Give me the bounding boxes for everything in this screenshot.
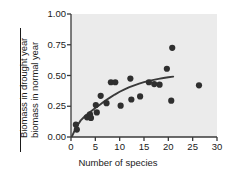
data-point: [103, 100, 109, 106]
x-tick-label: 20: [156, 142, 180, 152]
x-tick-label: 5: [83, 142, 107, 152]
x-tick-label: 30: [205, 142, 229, 152]
data-point: [93, 102, 99, 108]
chart-figure: Biomass in drought year biomass in norma…: [0, 0, 236, 176]
data-point: [151, 81, 157, 87]
data-point: [164, 66, 170, 72]
data-point: [112, 79, 118, 85]
x-tick-label: 0: [59, 142, 83, 152]
data-point: [118, 103, 124, 109]
data-point: [94, 109, 100, 115]
data-point: [146, 79, 152, 85]
data-point: [169, 45, 175, 51]
x-tick-label: 15: [132, 142, 156, 152]
x-tick-label: 25: [181, 142, 205, 152]
data-point: [137, 93, 143, 99]
data-point: [88, 115, 94, 121]
x-tick-label: 10: [108, 142, 132, 152]
data-point: [128, 96, 134, 102]
data-point: [98, 93, 104, 99]
data-point: [127, 75, 133, 81]
data-point: [74, 127, 80, 133]
x-axis-tick-labels: 051015202530: [0, 142, 236, 154]
data-point: [156, 82, 162, 88]
data-point: [196, 82, 202, 88]
data-point: [168, 98, 174, 104]
x-axis-title: Number of species: [0, 157, 236, 168]
